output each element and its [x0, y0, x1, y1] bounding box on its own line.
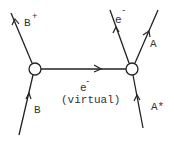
feynman-diagram: B + B e - (virtual) e - A A*: [0, 0, 174, 142]
right-vertex-circle: [126, 63, 138, 75]
b-label: B: [34, 104, 41, 116]
virtual-note: (virtual): [61, 94, 120, 106]
a-star-label: A*: [151, 101, 164, 113]
a-label: A: [150, 38, 157, 50]
b-plus-superscript: +: [32, 12, 37, 22]
electron-out-superscript: -: [121, 6, 126, 16]
virtual-electron-line: [41, 65, 126, 72]
b-incoming-line: [19, 75, 33, 135]
a-out-line: [135, 10, 158, 63]
b-plus-label: B: [24, 17, 31, 29]
left-vertex-circle: [29, 63, 41, 75]
a-star-in-line: [133, 75, 143, 128]
virtual-electron-superscript: -: [85, 77, 90, 87]
